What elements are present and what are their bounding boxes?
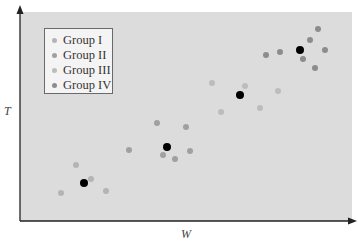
data-point [242, 83, 248, 89]
y-axis-label: T [4, 104, 11, 119]
data-point [307, 37, 313, 43]
legend-label: Group III [63, 63, 111, 78]
data-point [257, 105, 263, 111]
legend-label: Group IV [63, 78, 111, 93]
data-point [58, 190, 64, 196]
y-axis-arrow-icon [17, 5, 24, 14]
data-point [277, 49, 283, 55]
legend-label: Group I [63, 33, 102, 48]
data-point [73, 162, 79, 168]
centroid-point [163, 143, 171, 151]
legend-label: Group II [63, 48, 106, 63]
legend-dot-icon [52, 83, 57, 88]
data-point [300, 56, 306, 62]
data-point [275, 88, 281, 94]
data-point [315, 26, 321, 32]
data-point [312, 65, 318, 71]
data-point [154, 120, 160, 126]
data-point [103, 188, 109, 194]
x-axis-arrow-icon [348, 218, 357, 225]
centroid-point [236, 91, 244, 99]
data-point [218, 109, 224, 115]
data-point [160, 152, 166, 158]
data-point [209, 80, 215, 86]
data-point [263, 52, 269, 58]
centroid-point [80, 179, 88, 187]
data-point [322, 47, 328, 53]
legend-item-group-4: Group IV [52, 78, 112, 93]
x-axis-label: W [181, 227, 191, 242]
centroid-point [296, 46, 304, 54]
data-point [126, 147, 132, 153]
legend: Group I Group II Group III Group IV [44, 28, 113, 94]
data-point [187, 148, 193, 154]
legend-item-group-2: Group II [52, 48, 112, 63]
data-point [88, 176, 94, 182]
data-point [172, 156, 178, 162]
legend-dot-icon [52, 38, 57, 43]
legend-item-group-3: Group III [52, 63, 112, 78]
legend-dot-icon [52, 53, 57, 58]
data-point [183, 124, 189, 130]
legend-dot-icon [52, 68, 57, 73]
legend-item-group-1: Group I [52, 33, 112, 48]
